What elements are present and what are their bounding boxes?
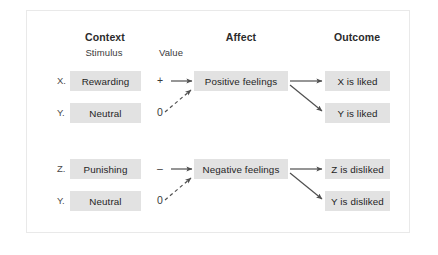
diagram-canvas: Context Affect Outcome Stimulus Value X.… <box>0 0 438 255</box>
row-label-y-bottom: Y. <box>57 195 65 206</box>
column-heading-outcome: Outcome <box>300 31 414 43</box>
value-mark-negative: – <box>153 162 167 174</box>
neutral-to-negative <box>165 178 191 200</box>
stimulus-box-neutral-bottom: Neutral <box>70 191 141 211</box>
outcome-box-y-is-liked: Y is liked <box>325 103 390 123</box>
negative-to-y-is-disliked <box>290 173 322 199</box>
stimulus-box-rewarding: Rewarding <box>70 71 141 91</box>
row-label-x-top: X. <box>57 75 66 86</box>
column-heading-affect: Affect <box>166 31 316 43</box>
outcome-box-z-is-disliked: Z is disliked <box>325 159 390 179</box>
value-mark-positive: + <box>153 74 167 86</box>
row-label-y-top: Y. <box>57 107 65 118</box>
value-mark-zero-bottom: 0 <box>153 194 167 206</box>
sub-heading-stimulus: Stimulus <box>68 47 140 58</box>
row-label-z: Z. <box>57 163 65 174</box>
affect-box-positive-feelings: Positive feelings <box>194 71 288 91</box>
positive-to-y-is-liked <box>290 85 322 111</box>
stimulus-box-punishing: Punishing <box>70 159 141 179</box>
sub-heading-value: Value <box>145 47 197 58</box>
diagram-content: Context Affect Outcome Stimulus Value X.… <box>0 0 438 255</box>
outcome-box-x-is-liked: X is liked <box>325 71 390 91</box>
outcome-box-y-is-disliked: Y is disliked <box>325 191 390 211</box>
affect-box-negative-feelings: Negative feelings <box>194 159 288 179</box>
value-mark-zero-top: 0 <box>153 106 167 118</box>
neutral-to-positive <box>165 90 191 112</box>
stimulus-box-neutral-top: Neutral <box>70 103 141 123</box>
